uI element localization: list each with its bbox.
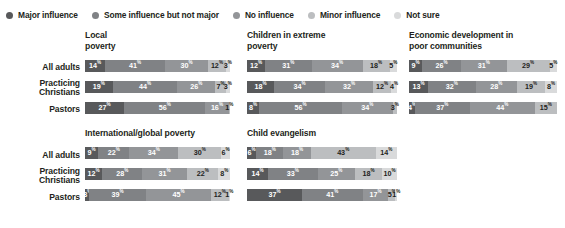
bar-group: 6%18%18%43%14%14%33%25%18%10%37%41%17%5%… bbox=[247, 147, 397, 203]
bar-segment: 41% bbox=[302, 189, 363, 201]
legend-item-1: Some influence but not major bbox=[92, 10, 219, 20]
bar-row: 4%37%44%15% bbox=[409, 102, 557, 114]
bar-segment-value-label: 43% bbox=[337, 149, 349, 156]
bar-segment-value-label: 18% bbox=[362, 170, 374, 177]
bar-segment-value-label: 3% bbox=[224, 62, 232, 69]
bar-segment-value-label: 44% bbox=[139, 83, 151, 90]
bar-segment-value-label: 30% bbox=[180, 62, 192, 69]
bar-segment: 37% bbox=[415, 102, 470, 114]
row-label-all-adults: All adults bbox=[42, 63, 80, 73]
bar-segment: 8% bbox=[247, 102, 259, 114]
bar-segment: 28% bbox=[476, 81, 517, 93]
bar-segment-value-label: 34% bbox=[331, 62, 343, 69]
bar-segment-value-label: 17% bbox=[369, 191, 381, 198]
bar-segment: 5% bbox=[550, 60, 557, 72]
bar-segment: 18% bbox=[283, 147, 310, 159]
bar-segment: 32% bbox=[428, 81, 475, 93]
bar-segment-value-label: 5% bbox=[549, 62, 557, 69]
bar-segment: 5% bbox=[390, 60, 398, 72]
bar-row: 18%34%32%12%4% bbox=[247, 81, 397, 93]
row-label-pastors: Pastors bbox=[49, 105, 80, 115]
bar-segment: 14% bbox=[85, 60, 105, 72]
bar-segment: 32% bbox=[325, 81, 373, 93]
legend-swatch-icon bbox=[6, 12, 13, 19]
bar-segment-value-label: 13% bbox=[413, 83, 425, 90]
bar-segment-value-label: 41% bbox=[129, 62, 141, 69]
bar-segment-value-label: 56% bbox=[159, 104, 171, 111]
bar-segment-value-label: 31% bbox=[282, 62, 294, 69]
row-label-all-adults: All adults bbox=[42, 151, 80, 161]
bar-segment: 34% bbox=[342, 102, 392, 114]
bar-row: 9%26%31%29%5% bbox=[409, 60, 557, 72]
bar-segment-value-label: 19% bbox=[525, 83, 537, 90]
bar-segment: 41% bbox=[105, 60, 164, 72]
bar-segment-value-label: 18% bbox=[370, 62, 382, 69]
bar-segment-value-label: 12% bbox=[214, 191, 226, 198]
legend-item-label: Some influence but not major bbox=[104, 10, 219, 20]
bar-segment: 19% bbox=[85, 81, 113, 93]
bar-segment: 8% bbox=[545, 81, 557, 93]
legend-item-label: Minor influence bbox=[320, 10, 380, 20]
bar-segment-value-label: 28% bbox=[490, 83, 502, 90]
legend-item-4: Not sure bbox=[394, 10, 439, 20]
chart-panel-economic-development: Economic development in poor communities… bbox=[409, 30, 557, 51]
bar-segment-value-label: 37% bbox=[436, 104, 448, 111]
bar-segment-value-label: 3% bbox=[391, 104, 399, 111]
bar-segment-value-label: 12% bbox=[250, 62, 262, 69]
bar-segment: 12% bbox=[85, 168, 102, 180]
bar-segment-value-label: 26% bbox=[436, 62, 448, 69]
bar-segment: 39% bbox=[89, 189, 146, 201]
bar-segment: 44% bbox=[113, 81, 177, 93]
bar-segment: 3% bbox=[226, 81, 230, 93]
bar-segment: 9% bbox=[85, 147, 98, 159]
bar-segment-value-label: 1% bbox=[225, 191, 233, 198]
legend-item-3: Minor influence bbox=[308, 10, 380, 20]
chart-panel-title: International/global poverty bbox=[85, 128, 230, 139]
bar-segment: 1% bbox=[395, 189, 396, 201]
legend-item-label: Major influence bbox=[18, 10, 78, 20]
bar-segment-value-label: 18% bbox=[254, 83, 266, 90]
bar-segment-value-label: 12% bbox=[211, 62, 223, 69]
bar-segment: 31% bbox=[142, 168, 187, 180]
bar-segment: 37% bbox=[247, 189, 302, 201]
bar-segment: 25% bbox=[318, 168, 356, 180]
bar-segment-value-label: 14% bbox=[89, 62, 101, 69]
bar-row: 19%44%26%7%3% bbox=[85, 81, 230, 93]
bar-segment: 30% bbox=[178, 147, 221, 159]
bar-segment-value-label: 12% bbox=[376, 83, 388, 90]
legend-item-2: No influence bbox=[233, 10, 294, 20]
bar-segment: 4% bbox=[391, 81, 397, 93]
bar-segment: 30% bbox=[165, 60, 209, 72]
legend-item-label: No influence bbox=[245, 10, 294, 20]
chart-panel-title: Local poverty bbox=[85, 30, 230, 51]
legend-item-label: Not sure bbox=[406, 10, 439, 20]
bar-group: 12%31%34%18%5%18%34%32%12%4%8%56%34%3% bbox=[247, 60, 397, 116]
bar-segment: 45% bbox=[146, 189, 211, 201]
chart-panel-title: Economic development in poor communities bbox=[409, 30, 557, 51]
bar-segment: 18% bbox=[247, 81, 274, 93]
bar-segment: 15% bbox=[535, 102, 557, 114]
bar-segment-value-label: 39% bbox=[112, 191, 124, 198]
bar-segment: 44% bbox=[470, 102, 535, 114]
bar-segment-value-label: 22% bbox=[108, 149, 120, 156]
bar-row: 12%28%31%22%8% bbox=[85, 168, 230, 180]
bar-segment: 3% bbox=[226, 60, 230, 72]
bar-segment-value-label: 34% bbox=[361, 104, 373, 111]
legend-item-0: Major influence bbox=[6, 10, 78, 20]
bar-segment: 12% bbox=[373, 81, 391, 93]
bar-segment-value-label: 6% bbox=[247, 149, 255, 156]
bar-row: 3%39%45%12%1% bbox=[85, 189, 230, 201]
bar-segment-value-label: 16% bbox=[211, 104, 223, 111]
bar-segment-value-label: 44% bbox=[496, 104, 508, 111]
bar-segment-value-label: 19% bbox=[93, 83, 105, 90]
bar-segment: 14% bbox=[247, 168, 268, 180]
legend-swatch-icon bbox=[92, 12, 99, 19]
bar-segment: 17% bbox=[363, 189, 388, 201]
bar-segment-value-label: 28% bbox=[116, 170, 128, 177]
bar-segment-value-label: 31% bbox=[159, 170, 171, 177]
bar-segment-value-label: 5% bbox=[389, 62, 397, 69]
bar-group: 14%41%30%12%3%19%44%26%7%3%27%56%16%1% bbox=[85, 60, 230, 116]
bar-segment-value-label: 32% bbox=[446, 83, 458, 90]
bar-segment: 9% bbox=[409, 60, 422, 72]
bar-row: 8%56%34%3% bbox=[247, 102, 397, 114]
